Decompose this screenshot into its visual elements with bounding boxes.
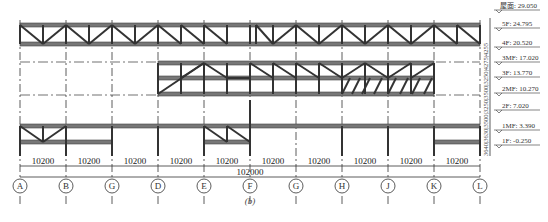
level-3mf: 3MF: 17.020 bbox=[502, 54, 539, 62]
middle-truss bbox=[158, 61, 434, 96]
axis-label-E: E bbox=[201, 181, 207, 191]
level-1mf: 1MF: 3.390 bbox=[502, 122, 536, 130]
level-markers: 屋面: 29.050 5F: 24.795 4F: 20.520 3MF: 17… bbox=[494, 2, 540, 148]
bay-dim-1: 10200 bbox=[32, 156, 55, 166]
total-span: 102000 bbox=[237, 167, 265, 177]
axis-label-G2: G bbox=[293, 181, 300, 191]
structural-elevation-drawing: 10200 10200 10200 10200 10200 10200 1020… bbox=[0, 0, 548, 222]
bay-dim-3: 10200 bbox=[124, 156, 147, 166]
axis-label-K: K bbox=[431, 181, 438, 191]
bay-dim-2: 10200 bbox=[78, 156, 101, 166]
bay-dim-9: 10200 bbox=[400, 156, 423, 166]
axis-label-L: L bbox=[477, 181, 483, 191]
level-roof: 屋面: 29.050 bbox=[500, 2, 537, 10]
axis-label-J: J bbox=[386, 181, 390, 191]
axis-label-G1: G bbox=[109, 181, 116, 191]
bay-dim-5: 10200 bbox=[216, 156, 239, 166]
roof-truss bbox=[20, 23, 480, 46]
axis-label-H: H bbox=[339, 181, 346, 191]
bay-dim-4: 10200 bbox=[170, 156, 193, 166]
bay-dim-6: 10200 bbox=[262, 156, 285, 166]
level-2f: 2F: 7.020 bbox=[502, 102, 529, 110]
bay-dim-7: 10200 bbox=[308, 156, 331, 166]
figure-caption: (b) bbox=[245, 196, 256, 206]
axis-label-A: A bbox=[17, 181, 24, 191]
level-1f: 1F: -0.250 bbox=[502, 137, 532, 145]
lower-frames bbox=[20, 100, 480, 156]
level-4f: 4F: 20.520 bbox=[502, 39, 533, 47]
axis-label-B: B bbox=[63, 181, 69, 191]
axis-label-D: D bbox=[155, 181, 162, 191]
bay-dim-10: 10200 bbox=[446, 156, 469, 166]
axis-label-F: F bbox=[247, 181, 252, 191]
level-5f: 5F: 24.795 bbox=[502, 20, 533, 28]
axis-labels: A B G D E F G H J K L bbox=[17, 181, 483, 191]
level-3f: 3F: 13.770 bbox=[502, 69, 533, 77]
level-2mf: 2MF: 10.270 bbox=[502, 85, 539, 93]
vertical-dimensions: 3640|3630|3500|3250|3500|3250|4275|4255 bbox=[482, 43, 489, 156]
bay-dim-8: 10200 bbox=[354, 156, 377, 166]
